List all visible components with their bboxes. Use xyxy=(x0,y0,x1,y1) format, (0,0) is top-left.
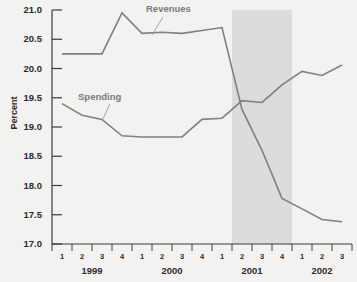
y-tick-label: 21.0 xyxy=(8,4,42,15)
y-tick-label: 17.0 xyxy=(8,238,42,249)
chart-container: Percent 21.020.520.019.519.018.518.017.5… xyxy=(0,0,357,282)
spending-label: Spending xyxy=(78,91,121,102)
x-tick-quarter-label: 3 xyxy=(95,252,109,261)
x-tick-quarter-label: 3 xyxy=(335,252,349,261)
y-tick-label: 17.5 xyxy=(8,209,42,220)
x-tick-quarter-label: 1 xyxy=(295,252,309,261)
spending-leader-line xyxy=(102,104,110,121)
x-axis-year-label: 2002 xyxy=(292,265,352,276)
x-tick-quarter-label: 2 xyxy=(155,252,169,261)
recession-shaded-band xyxy=(232,10,292,244)
x-tick-quarter-label: 1 xyxy=(135,252,149,261)
revenues-label: Revenues xyxy=(146,3,191,14)
x-tick-quarter-label: 4 xyxy=(275,252,289,261)
y-tick-label: 18.5 xyxy=(8,150,42,161)
x-tick-quarter-label: 3 xyxy=(255,252,269,261)
x-tick-quarter-label: 2 xyxy=(75,252,89,261)
chart-plot-svg xyxy=(0,0,357,282)
y-axis-ticks xyxy=(52,10,62,244)
x-axis-year-label: 2000 xyxy=(142,265,202,276)
y-tick-label: 20.0 xyxy=(8,63,42,74)
x-axis-year-label: 1999 xyxy=(62,265,122,276)
x-tick-quarter-label: 4 xyxy=(115,252,129,261)
x-tick-quarter-label: 1 xyxy=(215,252,229,261)
x-tick-quarter-label: 2 xyxy=(315,252,329,261)
x-tick-quarter-label: 1 xyxy=(55,252,69,261)
x-axis-year-label: 2001 xyxy=(222,265,282,276)
x-axis-ticks xyxy=(52,244,352,251)
x-tick-quarter-label: 2 xyxy=(235,252,249,261)
x-tick-quarter-label: 3 xyxy=(175,252,189,261)
y-tick-label: 19.0 xyxy=(8,121,42,132)
y-tick-label: 19.5 xyxy=(8,92,42,103)
y-tick-label: 20.5 xyxy=(8,33,42,44)
y-tick-label: 18.0 xyxy=(8,180,42,191)
x-tick-quarter-label: 4 xyxy=(195,252,209,261)
